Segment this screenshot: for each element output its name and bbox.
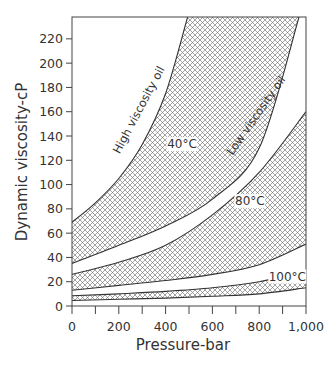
y-tick-label: 180 <box>39 80 63 95</box>
y-tick-label: 140 <box>39 129 63 144</box>
y-tick-label: 100 <box>39 177 63 192</box>
y-tick-label: 0 <box>55 299 63 314</box>
x-tick-label: 800 <box>247 319 271 334</box>
x-axis: 02004006008001,000 <box>68 306 324 334</box>
y-tick-label: 80 <box>47 201 63 216</box>
y-tick-label: 20 <box>47 274 63 289</box>
x-tick-label: 200 <box>107 319 131 334</box>
y-tick-label: 40 <box>47 250 63 265</box>
x-tick-label: 1,000 <box>288 319 324 334</box>
y-tick-label: 60 <box>47 226 63 241</box>
y-tick-label: 200 <box>39 56 63 71</box>
annotation-label: 80°C <box>235 194 265 208</box>
x-tick-label: 400 <box>154 319 178 334</box>
y-axis: 020406080100120140160180200220 <box>39 31 72 313</box>
x-axis-title: Pressure-bar <box>136 336 231 354</box>
y-axis-title: Dynamic viscosity-cP <box>13 83 31 241</box>
annotation-label: 100°C <box>269 270 306 284</box>
viscosity-pressure-chart: 020406080100120140160180200220 020040060… <box>0 0 327 366</box>
y-tick-label: 220 <box>39 31 63 46</box>
y-tick-label: 160 <box>39 104 63 119</box>
x-tick-label: 600 <box>200 319 224 334</box>
annotation-label: 40°C <box>167 137 197 151</box>
y-tick-label: 120 <box>39 153 63 168</box>
x-tick-label: 0 <box>68 319 76 334</box>
